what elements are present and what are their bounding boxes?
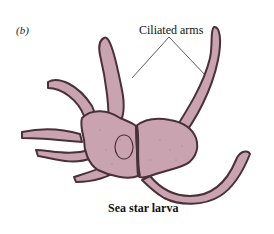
larva-body xyxy=(22,27,250,204)
callout-lines xyxy=(132,37,207,78)
sea-star-larva-illustration xyxy=(0,0,274,234)
figure-caption: Sea star larva xyxy=(108,201,178,216)
